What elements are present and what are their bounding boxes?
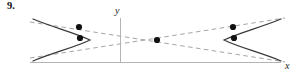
- left-lower-point: [77, 35, 83, 41]
- left-upper-point: [76, 24, 82, 30]
- figure-container: 9. y x: [0, 0, 300, 76]
- hyperbola-plot: y x: [0, 0, 300, 76]
- y-axis-label: y: [114, 5, 120, 16]
- right-upper-point: [230, 24, 236, 30]
- x-axis-label: x: [284, 60, 290, 71]
- right-lower-point: [231, 35, 237, 41]
- points-group: [76, 24, 237, 43]
- center-point: [154, 37, 160, 43]
